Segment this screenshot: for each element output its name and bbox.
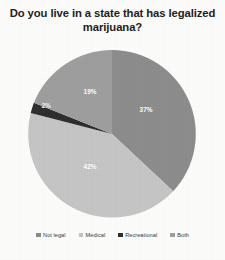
pie-label-recreational: 2% <box>41 102 51 109</box>
legend-label: Not legal <box>43 232 66 238</box>
legend-swatch-icon <box>118 233 123 238</box>
chart-title-line-2: marijuana? <box>6 20 219 34</box>
chart-title: Do you live in a state that has legalize… <box>6 6 219 34</box>
legend-label: Medical <box>86 232 106 238</box>
legend-item-both[interactable]: Both <box>170 232 189 238</box>
pie-label-both: 19% <box>84 88 97 95</box>
legend-swatch-icon <box>170 233 175 238</box>
pie-label-medical: 42% <box>84 163 97 170</box>
legend-swatch-icon <box>79 233 84 238</box>
legend-item-not-legal[interactable]: Not legal <box>36 232 66 238</box>
pie-svg: 37% 42% 2% 19% <box>28 48 198 222</box>
legend-label: Both <box>177 232 189 238</box>
legend-item-medical[interactable]: Medical <box>79 232 106 238</box>
pie-label-not-legal: 37% <box>140 106 153 113</box>
chart-title-line-1: Do you live in a state that has legalize… <box>6 6 219 20</box>
pie-chart-figure: Do you live in a state that has legalize… <box>0 0 225 260</box>
pie-plot-area: 37% 42% 2% 19% <box>28 48 198 222</box>
legend-item-recreational[interactable]: Recreational <box>118 232 157 238</box>
chart-legend: Not legal Medical Recreational Both <box>0 232 225 238</box>
legend-label: Recreational <box>125 232 157 238</box>
legend-swatch-icon <box>36 233 41 238</box>
